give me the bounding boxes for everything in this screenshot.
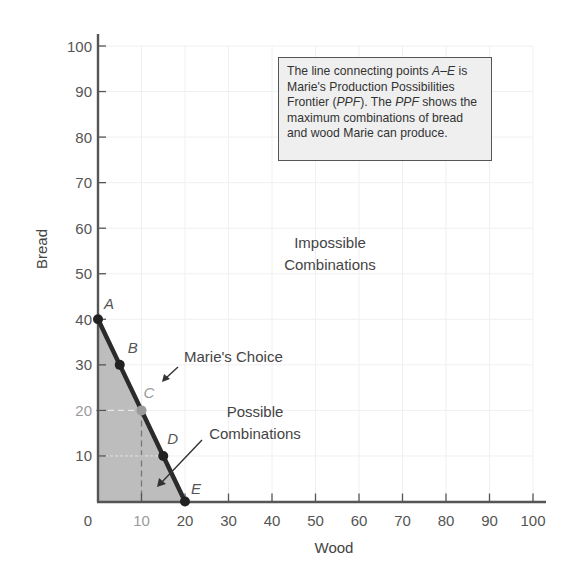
- impossible-combinations-label-line2: Combinations: [284, 256, 376, 273]
- point-d-marker: [158, 451, 168, 461]
- point-c-label: C: [144, 384, 155, 401]
- x-tick-label: 70: [394, 512, 411, 529]
- y-tick-label: 80: [75, 129, 92, 146]
- possible-combinations-label-line2: Combinations: [209, 425, 301, 442]
- x-tick-label: 100: [520, 512, 545, 529]
- y-tick-label: 100: [67, 38, 92, 55]
- x-tick-label: 90: [481, 512, 498, 529]
- y-tick-label: 10: [75, 447, 92, 464]
- maries-choice-label: Marie's Choice: [184, 348, 283, 365]
- x-tick-label: 40: [264, 512, 281, 529]
- point-e-marker: [180, 497, 190, 507]
- y-tick-label: 40: [75, 311, 92, 328]
- y-tick-label: 50: [75, 265, 92, 282]
- y-tick-label: 30: [75, 356, 92, 373]
- impossible-combinations-label-line1: Impossible: [294, 234, 366, 251]
- y-tick-label: 20: [75, 402, 92, 419]
- x-axis-title: Wood: [315, 539, 354, 556]
- info-text-5: ). The: [360, 95, 395, 109]
- y-tick-label: 90: [75, 83, 92, 100]
- x-tick-label: 60: [351, 512, 368, 529]
- ppf-info-box: The line connecting points A–E is Marie'…: [278, 57, 492, 161]
- info-text-1: The line connecting points: [287, 64, 432, 78]
- info-text-ppf-1: PPF: [336, 95, 360, 109]
- y-tick-label: 60: [75, 220, 92, 237]
- point-a-label: A: [103, 295, 114, 312]
- point-d-label: D: [167, 430, 178, 447]
- y-tick-labels: 102030405060708090100: [67, 38, 92, 465]
- point-b-label: B: [128, 339, 138, 356]
- x-tick-label: 0: [84, 512, 92, 529]
- x-tick-label: 30: [220, 512, 237, 529]
- x-tick-label: 80: [438, 512, 455, 529]
- maries-choice-arrow-icon: [162, 367, 178, 382]
- y-tick-label: 70: [75, 174, 92, 191]
- x-tick-label: 50: [307, 512, 324, 529]
- point-c-marker: [137, 405, 147, 415]
- y-axis-title: Bread: [33, 229, 50, 269]
- info-text-ppf-2: PPF: [395, 95, 419, 109]
- possible-combinations-label-line1: Possible: [227, 403, 284, 420]
- point-a-marker: [93, 314, 103, 324]
- point-b-marker: [115, 360, 125, 370]
- x-tick-labels: 0102030405060708090100: [84, 512, 546, 529]
- x-tick-label: 20: [177, 512, 194, 529]
- info-text-points: A–E: [432, 64, 455, 78]
- x-tick-label: 10: [133, 512, 150, 529]
- point-e-label: E: [191, 480, 202, 497]
